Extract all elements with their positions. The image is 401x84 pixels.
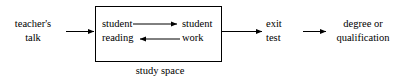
- node-student-work: student work: [182, 17, 226, 45]
- diagram-canvas: teacher's talk student reading student w…: [0, 0, 401, 84]
- node-teachers-talk: teacher's talk: [2, 17, 64, 45]
- node-student-reading: student reading: [102, 17, 146, 45]
- node-exit-test: exit test: [266, 17, 298, 45]
- node-degree-or-qualification: degree or qualification: [327, 17, 399, 45]
- study-space-caption: study space: [120, 64, 200, 78]
